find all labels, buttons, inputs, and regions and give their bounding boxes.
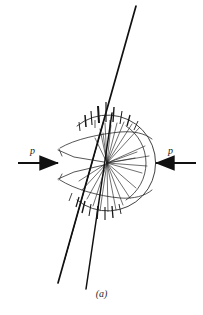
figure-caption: (a) (0, 288, 203, 299)
arc-hatch-mark (82, 201, 85, 213)
notch-wedge-lower (58, 165, 104, 179)
arc-hatch-mark (112, 206, 113, 218)
load-label-right: p (168, 146, 173, 156)
arc-hatch-mark (113, 107, 114, 122)
radial-crack (107, 152, 137, 163)
notch-tip-upper (59, 149, 62, 156)
disc-inner-arc (126, 126, 146, 200)
arc-hatch-mark (98, 106, 99, 123)
arc-hatch-mark (69, 193, 72, 201)
arc-hatch-mark (76, 197, 79, 207)
arc-hatch-mark (85, 115, 86, 127)
through-crack-group (58, 6, 136, 289)
notch-tip-lower (59, 174, 62, 180)
notch-wedge-upper (58, 150, 104, 162)
arc-hatch-mark (120, 111, 122, 124)
radial-crack (107, 163, 108, 213)
arc-hatch-mark (89, 204, 91, 216)
load-label-left: p (30, 146, 35, 156)
disc-outer-arc (77, 115, 156, 211)
arc-hatch-mark (91, 111, 92, 125)
figure-container: p p (a) (0, 0, 203, 315)
lower-fragment-chord (60, 180, 152, 198)
radial-crack (107, 127, 140, 163)
arc-hatch-mark (97, 206, 98, 219)
fracture-diagram (0, 0, 203, 315)
